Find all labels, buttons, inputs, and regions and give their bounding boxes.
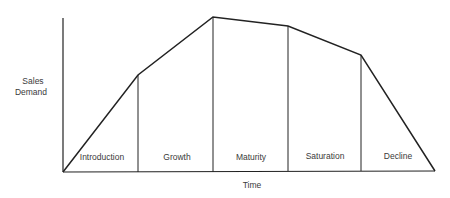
stage-label-introduction: Introduction xyxy=(80,152,125,162)
stage-label-growth: Growth xyxy=(163,152,191,162)
product-life-cycle-diagram: Sales Demand Introduction Growth Maturit… xyxy=(0,0,450,198)
x-axis xyxy=(63,171,435,172)
x-axis-label: Time xyxy=(243,180,262,190)
y-axis-label-line2: Demand xyxy=(15,87,47,97)
stage-label-maturity: Maturity xyxy=(236,152,267,162)
stage-label-saturation: Saturation xyxy=(306,151,345,161)
demand-curve xyxy=(63,17,435,172)
stage-label-decline: Decline xyxy=(384,151,413,161)
y-axis-label-line1: Sales xyxy=(22,76,43,86)
